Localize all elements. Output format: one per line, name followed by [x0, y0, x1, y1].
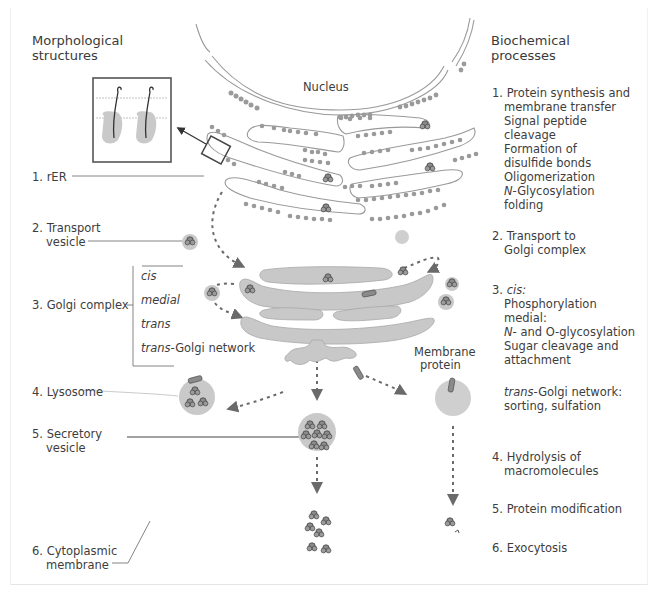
process-line: Golgi complex [492, 243, 586, 257]
process-italic: N [504, 184, 513, 198]
item-number: 1. [492, 86, 503, 100]
morphological-structures-header: Morphological structures [32, 33, 123, 63]
process-line: attachment [492, 353, 635, 367]
transport-vesicle [182, 234, 198, 250]
item-label: Cytoplasmic [47, 544, 118, 558]
process-italic: N [504, 325, 513, 339]
membrane-protein-vesicle [353, 365, 471, 416]
process-line: cleavage [492, 128, 630, 142]
header-line: Morphological [32, 33, 123, 48]
structure-golgi-complex: 3. Golgi complex [32, 298, 129, 312]
item-number: 2. [492, 229, 503, 243]
process-4: 4. Hydrolysis of macromolecules [492, 450, 598, 478]
item-number: 5. [32, 427, 43, 441]
process-line: Protein synthesis and [507, 86, 630, 100]
process-line: Protein modification [507, 502, 622, 516]
structure-secretory-vesicle: 5. Secretory vesicle [32, 427, 102, 455]
item-number: 2. [32, 221, 43, 235]
item-number: 6. [492, 541, 503, 555]
lysosome [179, 375, 215, 415]
process-3-trans-golgi: trans-Golgi network: sorting, sulfation [492, 385, 622, 413]
label-line: protein [414, 359, 476, 372]
process-line: folding [492, 198, 630, 212]
item-label: Golgi complex [47, 298, 129, 312]
item-number: 4. [492, 450, 503, 464]
process-line: membrane transfer [492, 100, 630, 114]
process-line: disulfide bonds [492, 156, 630, 170]
item-label: rER [47, 170, 67, 184]
process-6: 6. Exocytosis [492, 541, 567, 555]
golgi-medial-label: medial [141, 293, 180, 307]
item-number: 1. [32, 170, 43, 184]
exocytosed-proteins [305, 511, 459, 553]
item-label: Lysosome [47, 385, 104, 399]
rough-er [207, 115, 475, 214]
process-line: Sugar cleavage and [492, 339, 635, 353]
structure-rer: 1. rER [32, 170, 67, 184]
structure-cytoplasmic-membrane: 6. Cytoplasmic membrane [32, 544, 117, 572]
nuclear-envelope [196, 18, 474, 115]
header-line: structures [32, 48, 123, 63]
item-number: 5. [492, 502, 503, 516]
golgi-complex [240, 267, 435, 365]
process-line: Phosphorylation [492, 297, 635, 311]
free-vesicle [395, 230, 409, 244]
process-line: Signal peptide [492, 114, 630, 128]
item-label: Secretory [47, 427, 102, 441]
item-label: vesicle [46, 235, 86, 249]
golgi-trans-label: trans [141, 317, 171, 331]
item-number: 3. [32, 298, 43, 312]
process-line: macromolecules [492, 464, 598, 478]
item-number: 4. [32, 385, 43, 399]
golgi-cis-label: cis [141, 269, 157, 283]
label-italic: trans [141, 341, 171, 355]
header-line: processes [491, 48, 570, 63]
process-line: Transport to [507, 229, 576, 243]
structure-lysosome: 4. Lysosome [32, 385, 103, 399]
process-line: medial: [492, 311, 635, 325]
process-line: -Golgi network: [534, 385, 622, 399]
biochemical-processes-header: Biochemical processes [491, 33, 570, 63]
trans-golgi-network-label: trans-Golgi network [141, 341, 255, 355]
process-line: -Glycosylation [513, 184, 595, 198]
process-5: 5. Protein modification [492, 502, 622, 516]
process-2: 2. Transport to Golgi complex [492, 229, 586, 257]
item-number: 3. [492, 283, 503, 297]
membrane-protein-label: Membrane protein [414, 346, 476, 372]
process-line: Oligomerization [492, 170, 630, 184]
process-line: Formation of [492, 142, 630, 156]
item-label: vesicle [46, 441, 86, 455]
label-rest: -Golgi network [171, 341, 256, 355]
item-number: 6. [32, 544, 43, 558]
process-line: sorting, sulfation [492, 399, 622, 413]
leader-lines [72, 176, 300, 563]
item-label: Transport [47, 221, 101, 235]
detail-pointer-arrow [178, 128, 206, 144]
process-3: 3. cis: Phosphorylation medial: N- and O… [492, 283, 635, 367]
ribosome-inset [93, 78, 171, 162]
process-line: Exocytosis [507, 541, 568, 555]
item-label: membrane [46, 558, 109, 572]
process-1: 1. Protein synthesis and membrane transf… [492, 86, 630, 212]
process-italic: trans [504, 385, 534, 399]
process-line: Hydrolysis of [507, 450, 581, 464]
secretory-vesicle [298, 413, 336, 451]
header-line: Biochemical [491, 33, 570, 48]
nucleus-label: Nucleus [303, 80, 349, 94]
structure-transport-vesicle: 2. Transport vesicle [32, 221, 101, 249]
process-italic: cis: [507, 283, 526, 297]
process-line: - and O-glycosylation [513, 325, 635, 339]
